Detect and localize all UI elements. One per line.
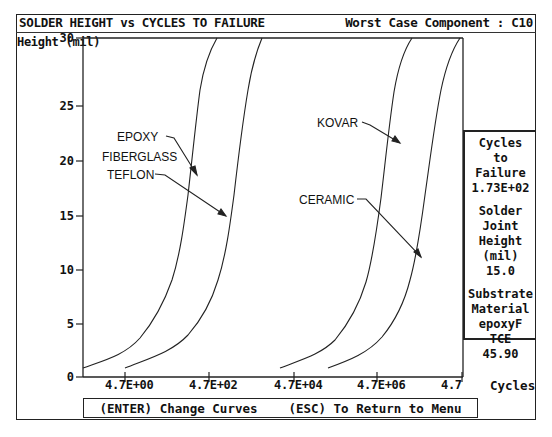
action-bar: (ENTER) Change Curves (ESC) To Return to… — [83, 398, 478, 418]
substrate-title: Substrate — [465, 287, 536, 302]
height-title: Solder Joint — [465, 204, 536, 234]
cycles-title: Cycles — [465, 136, 536, 151]
x-tick-label: 4.7E+02 — [189, 378, 237, 392]
curve-epoxy-fiberglass — [83, 38, 217, 368]
return-to-menu-action[interactable]: (ESC) To Return to Menu — [288, 401, 461, 416]
label-fiberglass: FIBERGLASS — [102, 150, 177, 164]
label-ceramic: CERAMIC — [299, 193, 354, 207]
substrate-title-2: Material — [465, 302, 536, 317]
solder-height-block: Solder Joint Height (mil) 15.0 — [465, 204, 536, 279]
x-axis-unit: Cycles — [490, 378, 535, 393]
tce-value: 45.90 — [465, 347, 536, 362]
info-panel: Cycles to Failure 1.73E+02 Solder Joint … — [463, 130, 536, 340]
curve-teflon — [125, 38, 262, 368]
label-kovar: KOVAR — [317, 116, 358, 130]
label-teflon: TEFLON — [107, 168, 154, 182]
x-tick-label: 4.7E+00 — [105, 378, 153, 392]
cycles-title-2: to Failure — [465, 151, 536, 181]
cycles-value: 1.73E+02 — [465, 181, 536, 196]
height-value: 15.0 — [465, 264, 536, 279]
tce-label: TCE — [465, 332, 536, 347]
substrate-value: epoxyF — [465, 317, 536, 332]
cycles-to-failure-block: Cycles to Failure 1.73E+02 — [465, 136, 536, 196]
x-tick-label: 4.7E+04 — [274, 378, 322, 392]
x-tick-label: 4.7 — [441, 378, 462, 392]
height-title-2: Height (mil) — [465, 234, 536, 264]
label-epoxy: EPOXY — [117, 130, 158, 144]
x-tick-label: 4.7E+06 — [357, 378, 405, 392]
substrate-block: Substrate Material epoxyF TCE 45.90 — [465, 287, 536, 362]
change-curves-action[interactable]: (ENTER) Change Curves — [99, 401, 257, 416]
